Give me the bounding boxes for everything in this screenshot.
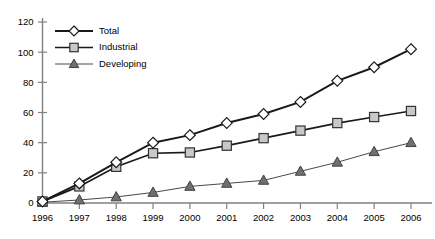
x-tick-label: 2005 [364,212,385,223]
data-point-marker [185,148,194,157]
y-tick-label: 80 [23,77,34,88]
data-point-marker [406,44,417,55]
y-tick-label: 100 [18,47,34,58]
x-tick-label: 1997 [69,212,90,223]
data-point-marker [221,118,232,129]
y-tick-label: 60 [23,107,34,118]
data-point-marker [406,137,416,146]
y-tick-label: 20 [23,167,34,178]
data-point-marker [295,97,306,108]
y-axis: 020406080100120 [18,16,47,208]
data-point-marker [333,118,342,127]
data-point-marker [370,112,379,121]
x-tick-label: 2003 [290,212,311,223]
series-layer [37,44,416,207]
y-tick-label: 40 [23,137,34,148]
data-point-marker [296,126,305,135]
line-chart: 020406080100120 199619971998199920002001… [0,0,435,239]
legend-marker-diamond-icon [69,26,79,36]
y-tick-label: 120 [18,16,34,27]
legend-label: Industrial [99,41,138,52]
legend-marker-triangle-icon [69,59,78,68]
x-tick-label: 2000 [179,212,200,223]
data-point-marker [259,134,268,143]
x-tick-label: 1996 [32,212,53,223]
y-tick-label: 0 [28,197,33,208]
legend-label: Developing [99,58,147,69]
x-tick-label: 2001 [216,212,237,223]
chart-canvas: 020406080100120 199619971998199920002001… [0,0,435,239]
data-point-marker [222,141,231,150]
x-tick-label: 2006 [400,212,421,223]
data-point-marker [185,130,196,141]
data-point-marker [148,137,159,148]
legend-marker-square-icon [70,43,78,51]
legend-item-industrial[interactable]: Industrial [55,41,138,52]
legend-label: Total [99,25,119,36]
x-tick-label: 2004 [327,212,348,223]
data-point-marker [258,109,269,120]
x-tick-label: 1998 [106,212,127,223]
chart-legend: TotalIndustrialDeveloping [55,25,147,69]
legend-item-developing[interactable]: Developing [55,58,147,69]
data-point-marker [332,75,343,86]
legend-item-total[interactable]: Total [55,25,119,36]
x-tick-label: 1999 [142,212,163,223]
data-point-marker [148,149,157,158]
data-point-marker [406,106,415,115]
x-axis: 1996199719981999200020012002200320042005… [32,203,432,223]
data-point-marker [369,62,380,73]
x-tick-label: 2002 [253,212,274,223]
